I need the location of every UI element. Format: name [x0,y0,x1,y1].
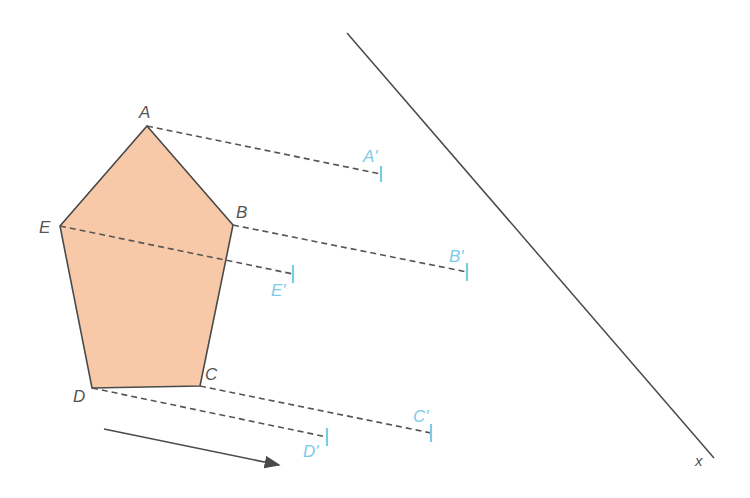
label-x: x [694,452,703,469]
label-c: C [205,365,218,384]
label-e-prime: E' [271,281,286,300]
direction-arrow [104,429,279,465]
label-d: D [73,387,85,406]
projection-line-b [233,225,467,272]
label-b: B [236,203,247,222]
label-e: E [39,218,51,237]
image-point-ticks [293,166,467,446]
label-a: A [138,103,150,122]
projection-line-c [200,386,431,433]
label-a-prime: A' [362,147,378,166]
mirror-line-x [347,33,714,458]
diagram-canvas: A B C D E x A' B' E' C' D' [0,0,750,498]
label-c-prime: C' [413,407,429,426]
label-b-prime: B' [449,247,464,266]
label-d-prime: D' [303,442,319,461]
projection-line-d [92,388,327,437]
